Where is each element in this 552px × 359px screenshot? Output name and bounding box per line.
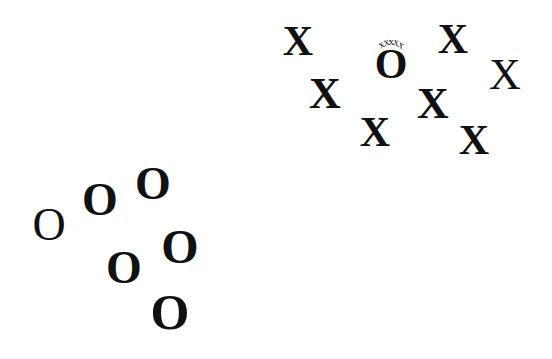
- o-mark: O: [82, 177, 118, 223]
- x-mark: X: [459, 119, 489, 161]
- x-mark: X: [309, 72, 341, 116]
- o-mark: O: [106, 245, 142, 291]
- o-mark: O: [151, 287, 190, 337]
- o-mark: O: [32, 202, 65, 248]
- x-mark: X: [438, 18, 468, 60]
- o-mark: O: [135, 161, 171, 207]
- x-mark: X: [360, 111, 390, 153]
- x-mark: X: [417, 82, 449, 126]
- x-mark: X: [283, 20, 313, 62]
- o-mark: O: [161, 223, 198, 271]
- embedded-o-mark: O: [375, 43, 408, 85]
- diagram-canvas: X X X X X X X xxxxx O O O O O O O: [0, 0, 552, 359]
- x-mark: X: [489, 53, 521, 97]
